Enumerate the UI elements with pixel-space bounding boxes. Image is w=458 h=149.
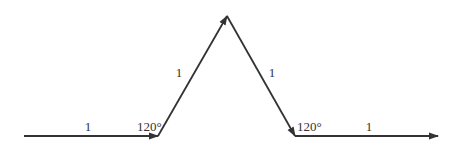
angle-left-label: 120°: [137, 119, 162, 134]
segment-2-length-label: 1: [176, 65, 183, 80]
segment-4-length-label: 1: [366, 119, 373, 134]
segment-3-arrow: [227, 16, 295, 136]
segment-1-length-label: 1: [85, 119, 92, 134]
segment-2-arrow: [158, 16, 227, 136]
segment-3-length-label: 1: [269, 65, 276, 80]
koch-generator-diagram: 1 1 1 1 120° 120°: [0, 0, 458, 149]
angle-right-label: 120°: [297, 119, 322, 134]
